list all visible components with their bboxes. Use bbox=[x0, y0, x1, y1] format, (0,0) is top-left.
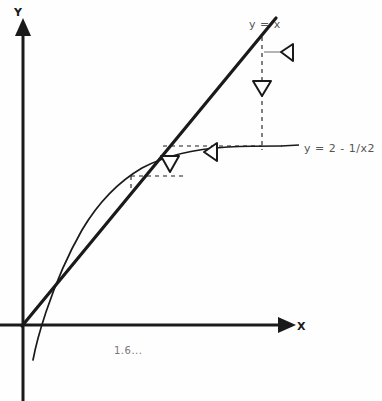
rational-curve-tail bbox=[281, 145, 299, 146]
identity-line-path bbox=[22, 18, 276, 326]
triangle-down-hollow-icon bbox=[161, 156, 179, 172]
upper-down-triangle-marker bbox=[253, 81, 271, 96]
x-axis-label: X bbox=[297, 320, 306, 333]
identity-line bbox=[22, 18, 276, 326]
rational-curve-path bbox=[33, 146, 281, 360]
y-axis-label: Y bbox=[13, 6, 23, 19]
triangle-down-hollow-icon bbox=[253, 81, 271, 96]
rational-curve-label: y = 2 - 1/x2 bbox=[304, 142, 375, 155]
rational-curve bbox=[33, 145, 299, 360]
triangle-left-hollow-icon bbox=[281, 44, 293, 61]
identity-line-label: y = x bbox=[249, 18, 281, 31]
x-axis: X bbox=[0, 317, 306, 333]
lower-down-triangle-marker bbox=[161, 156, 179, 172]
x-axis-arrowhead-icon bbox=[278, 317, 296, 333]
x-value-annotation: 1.6... bbox=[114, 345, 142, 356]
figure-canvas: Y X bbox=[0, 0, 382, 401]
y-axis-arrowhead-icon bbox=[15, 18, 31, 36]
diagram-svg: Y X bbox=[0, 0, 382, 401]
y-axis: Y bbox=[13, 6, 31, 401]
upper-left-triangle-marker bbox=[281, 44, 293, 61]
